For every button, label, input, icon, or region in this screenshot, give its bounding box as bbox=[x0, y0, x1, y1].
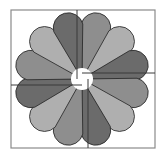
dresden-plate-diagram bbox=[0, 0, 162, 158]
center-hole bbox=[71, 68, 93, 90]
